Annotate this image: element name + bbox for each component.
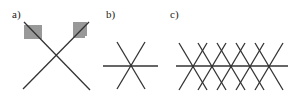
panel-b-label: b) bbox=[106, 8, 116, 21]
panel-a: a) bbox=[12, 8, 90, 90]
panel-c: c) bbox=[170, 8, 288, 90]
panel-a-label: a) bbox=[12, 8, 21, 21]
panel-b: b) bbox=[103, 8, 158, 89]
panel-c-label: c) bbox=[170, 8, 179, 21]
diagram-canvas: a) b) c) bbox=[0, 0, 299, 101]
